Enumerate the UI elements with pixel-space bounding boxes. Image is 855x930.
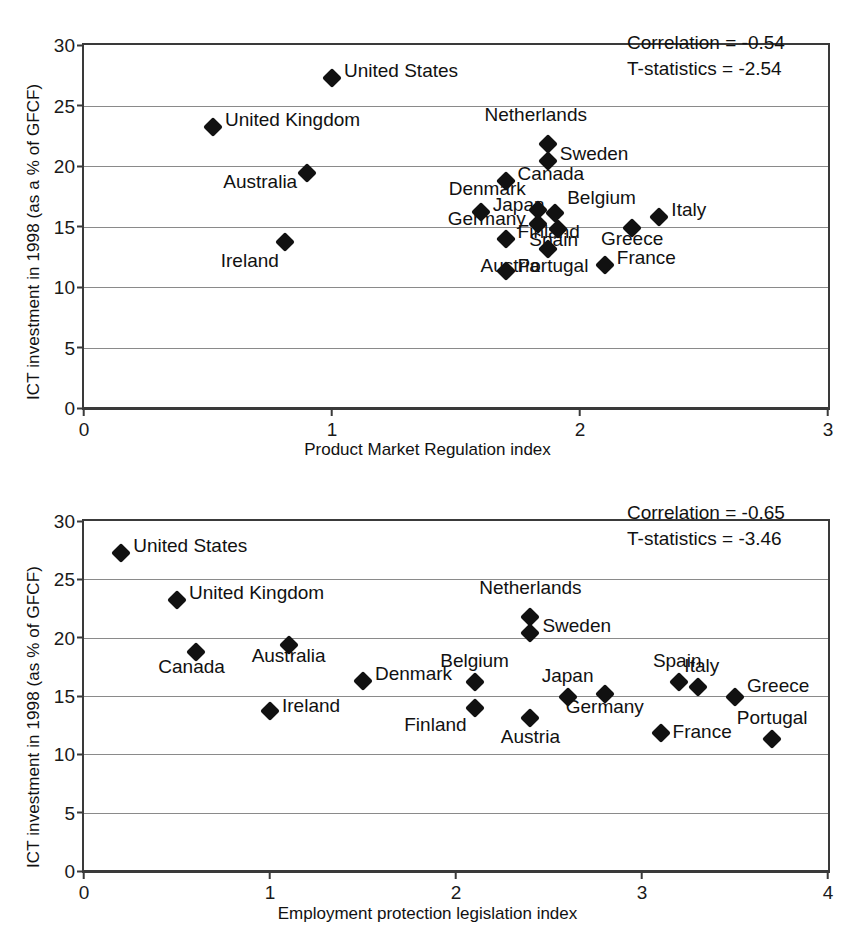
y-axis-tick-10: 10: [54, 278, 84, 297]
gridline: [84, 106, 828, 107]
stats-annotation-bottom: Correlation = -0.65 T-statistics = -3.46: [627, 500, 785, 551]
tstatistics-text-top: T-statistics = -2.54: [627, 56, 785, 82]
data-point-label-japan: Japan: [542, 666, 594, 685]
gridline: [84, 348, 828, 349]
stats-annotation-top: Correlation = -0.54 T-statistics = -2.54: [627, 30, 785, 81]
gridline: [84, 579, 828, 580]
plot-area-bottom: 05101520253001234United StatesUnited Kin…: [82, 519, 830, 873]
correlation-text-bottom: Correlation = -0.65: [627, 500, 785, 526]
x-axis-tick-1: 1: [327, 408, 338, 439]
data-point-label-united-kingdom: United Kingdom: [225, 110, 360, 129]
x-axis-tick-1: 1: [265, 871, 276, 902]
data-point-denmark[interactable]: [353, 671, 373, 691]
data-point-label-finland: Finland: [404, 714, 466, 733]
gridline: [84, 638, 828, 639]
y-axis-tick-5: 5: [64, 338, 84, 357]
data-point-italy[interactable]: [649, 207, 669, 227]
scatter-chart-product-market-regulation: 0510152025300123United StatesUnited King…: [0, 0, 855, 460]
tstatistics-text-bottom: T-statistics = -3.46: [627, 526, 785, 552]
y-axis-label-bottom: ICT investment in 1998 (as % of GFCF): [24, 566, 44, 868]
x-axis-tick-0: 0: [79, 871, 90, 902]
data-point-label-france: France: [617, 248, 676, 267]
data-point-label-france: France: [673, 722, 732, 741]
data-point-label-ireland: Ireland: [282, 696, 340, 715]
y-axis-tick-5: 5: [64, 803, 84, 822]
data-point-ireland[interactable]: [260, 701, 280, 721]
x-axis-tick-2: 2: [451, 871, 462, 902]
x-axis-label-bottom: Employment protection legislation index: [278, 904, 578, 924]
x-axis-tick-2: 2: [575, 408, 586, 439]
x-axis-label-top: Product Market Regulation index: [304, 440, 551, 460]
data-point-label-portugal: Portugal: [737, 708, 808, 727]
data-point-label-portugal: Portugal: [518, 256, 589, 275]
data-point-portugal[interactable]: [762, 729, 782, 749]
data-point-sweden[interactable]: [520, 623, 540, 643]
data-point-united-states[interactable]: [111, 543, 131, 563]
gridline: [84, 813, 828, 814]
gridline: [84, 696, 828, 697]
y-axis-tick-30: 30: [54, 512, 84, 531]
data-point-label-belgium: Belgium: [567, 188, 636, 207]
data-point-label-united-states: United States: [133, 535, 247, 554]
data-point-label-finland: Finland: [518, 221, 580, 240]
data-point-finland[interactable]: [465, 698, 485, 718]
data-point-label-canada: Canada: [518, 163, 585, 182]
y-axis-tick-15: 15: [54, 687, 84, 706]
x-axis-line-top: [84, 407, 828, 410]
data-point-label-united-kingdom: United Kingdom: [189, 583, 324, 602]
data-point-united-kingdom[interactable]: [203, 117, 223, 137]
plot-area-top: 0510152025300123United StatesUnited King…: [82, 43, 830, 410]
gridline: [84, 287, 828, 288]
data-point-label-sweden: Sweden: [542, 616, 611, 635]
y-axis-tick-20: 20: [54, 157, 84, 176]
gridline: [84, 754, 828, 755]
correlation-text-top: Correlation = -0.54: [627, 30, 785, 56]
x-axis-tick-0: 0: [79, 408, 90, 439]
data-point-label-australia: Australia: [252, 645, 326, 664]
y-axis-label-top: ICT investment in 1998 (as a % of GFCF): [24, 84, 44, 400]
data-point-label-greece: Greece: [601, 228, 663, 247]
y-axis-tick-25: 25: [54, 96, 84, 115]
x-axis-tick-3: 3: [637, 871, 648, 902]
data-point-label-germany: Germany: [448, 209, 526, 228]
data-point-label-greece: Greece: [747, 676, 809, 695]
data-point-label-australia: Australia: [223, 172, 297, 191]
data-point-united-states[interactable]: [322, 68, 342, 88]
y-axis-tick-10: 10: [54, 745, 84, 764]
data-point-united-kingdom[interactable]: [167, 590, 187, 610]
data-point-finland[interactable]: [496, 229, 516, 249]
data-point-label-ireland: Ireland: [221, 251, 279, 270]
data-point-label-netherlands: Netherlands: [479, 577, 581, 596]
data-point-label-italy: Italy: [684, 655, 719, 674]
data-point-label-germany: Germany: [566, 696, 644, 715]
y-axis-tick-20: 20: [54, 628, 84, 647]
scatter-chart-employment-protection: 05101520253001234United StatesUnited Kin…: [0, 470, 855, 930]
data-point-greece[interactable]: [725, 687, 745, 707]
data-point-label-netherlands: Netherlands: [485, 105, 587, 124]
x-axis-tick-3: 3: [823, 408, 834, 439]
y-axis-tick-25: 25: [54, 570, 84, 589]
data-point-label-austria: Austria: [501, 727, 560, 746]
data-point-label-united-states: United States: [344, 60, 458, 79]
data-point-label-denmark: Denmark: [375, 663, 452, 682]
data-point-france[interactable]: [595, 255, 615, 275]
y-axis-tick-15: 15: [54, 217, 84, 236]
x-axis-tick-4: 4: [823, 871, 834, 902]
data-point-italy[interactable]: [688, 677, 708, 697]
y-axis-tick-30: 30: [54, 36, 84, 55]
data-point-belgium[interactable]: [465, 672, 485, 692]
data-point-label-canada: Canada: [158, 656, 225, 675]
data-point-label-italy: Italy: [671, 199, 706, 218]
data-point-label-sweden: Sweden: [560, 144, 629, 163]
data-point-france[interactable]: [651, 723, 671, 743]
gridline: [84, 166, 828, 167]
